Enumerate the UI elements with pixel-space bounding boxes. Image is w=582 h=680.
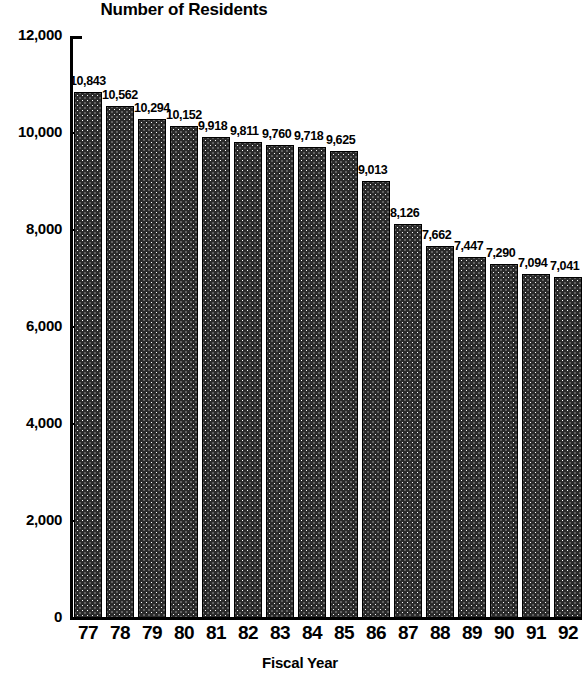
- bar: [394, 224, 422, 618]
- bar: [266, 145, 294, 618]
- bar-value-label: 10,294: [134, 101, 170, 115]
- x-axis-tick-label: 77: [72, 622, 104, 644]
- x-axis-tick-label: 91: [520, 622, 552, 644]
- bar: [74, 92, 102, 618]
- y-axis-tick-label: 4,000: [0, 414, 62, 431]
- bar-value-label: 9,625: [326, 133, 355, 147]
- bar-value-label: 9,718: [294, 129, 323, 143]
- bar-value-label: 7,094: [518, 256, 547, 270]
- x-axis-tick-label: 83: [264, 622, 296, 644]
- bar-chart: Number of Residents 02,0004,0006,0008,00…: [0, 0, 582, 680]
- x-axis-tick-label: 80: [168, 622, 200, 644]
- bar: [554, 277, 582, 618]
- x-axis-tick-label: 92: [552, 622, 582, 644]
- bar: [330, 151, 358, 618]
- y-axis-tick-label: 8,000: [0, 220, 62, 237]
- y-axis-tick-label: 6,000: [0, 317, 62, 334]
- bar-value-label: 7,290: [486, 246, 515, 260]
- bar-value-label: 9,811: [230, 124, 259, 138]
- bar-value-label: 9,760: [262, 127, 291, 141]
- y-axis-tick-label: 12,000: [0, 26, 62, 43]
- bar-value-label: 10,843: [70, 74, 106, 88]
- bar: [362, 181, 390, 618]
- bar-value-label: 7,041: [550, 259, 579, 273]
- bar: [234, 142, 262, 618]
- bar: [106, 106, 134, 618]
- x-axis-tick-label: 87: [392, 622, 424, 644]
- bar-value-label: 9,013: [358, 163, 387, 177]
- x-axis-tick-label: 90: [488, 622, 520, 644]
- x-axis-tick-label: 78: [104, 622, 136, 644]
- bar-value-label: 7,662: [422, 228, 451, 242]
- y-axis-tick-label: 2,000: [0, 511, 62, 528]
- x-axis-tick-label: 82: [232, 622, 264, 644]
- bar-value-label: 8,126: [390, 206, 419, 220]
- bar-value-label: 9,918: [198, 119, 227, 133]
- x-axis-tick-label: 86: [360, 622, 392, 644]
- chart-title: Number of Residents: [64, 0, 304, 20]
- x-axis-tick-label: 79: [136, 622, 168, 644]
- x-axis-tick-label: 88: [424, 622, 456, 644]
- bar: [298, 147, 326, 618]
- x-axis-tick-label: 85: [328, 622, 360, 644]
- bar-value-label: 10,152: [166, 108, 202, 122]
- x-axis-tick-label: 84: [296, 622, 328, 644]
- bar: [138, 119, 166, 618]
- x-axis-title: Fiscal Year: [70, 654, 530, 671]
- y-axis-tick-label: 10,000: [0, 123, 62, 140]
- y-axis-tick-label: 0: [0, 608, 62, 625]
- bar-value-label: 10,562: [102, 88, 138, 102]
- bar: [490, 264, 518, 618]
- bar: [426, 246, 454, 618]
- bar: [458, 257, 486, 618]
- bar: [202, 137, 230, 618]
- x-axis-tick-label: 81: [200, 622, 232, 644]
- bar-value-label: 7,447: [454, 239, 483, 253]
- x-axis-tick-label: 89: [456, 622, 488, 644]
- bar: [522, 274, 550, 618]
- bar: [170, 126, 198, 618]
- plot-area: [70, 36, 582, 618]
